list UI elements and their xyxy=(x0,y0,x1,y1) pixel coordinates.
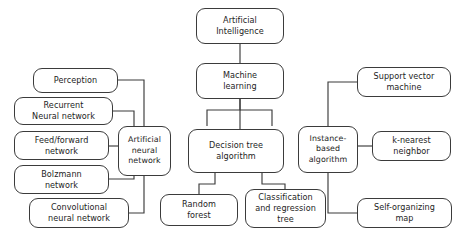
node-decision_tree_algorithm[interactable]: Decision tree algorithm xyxy=(188,129,284,173)
node-support_vector_machine[interactable]: Support vector machine xyxy=(357,67,451,97)
edge-perception-to-artificial_neural_network xyxy=(118,80,144,126)
node-convolutional_neural_network[interactable]: Convolutional neural network xyxy=(29,198,129,228)
node-label-artificial_neural_network: Artificial neural network xyxy=(128,135,161,166)
node-label-self_organizing_map: Self-organizing map xyxy=(374,202,435,223)
node-label-perception: Perception xyxy=(54,75,97,86)
node-classification_and_regression_tree[interactable]: Classification and regression tree xyxy=(245,189,326,228)
node-bolzmann_network[interactable]: Bolzmann network xyxy=(14,165,109,194)
node-label-k_nearest_neighbor: k-nearest neighbor xyxy=(392,135,431,156)
node-label-support_vector_machine: Support vector machine xyxy=(374,71,435,92)
node-self_organizing_map[interactable]: Self-organizing map xyxy=(357,198,452,228)
node-label-recurrent_neural_network: Recurrent Neural network xyxy=(32,100,95,121)
edge-instance_based_algorithm-to-support_vector_machine xyxy=(328,82,357,126)
node-label-feed_forward_network: Feed/forward network xyxy=(35,135,89,156)
node-label-bolzmann_network: Bolzmann network xyxy=(41,169,82,190)
edge-recurrent_neural_network-to-artificial_neural_network xyxy=(113,111,134,126)
node-label-machine_learning: Machine learning xyxy=(223,70,257,91)
flowchart-canvas: Artificial IntelligenceMachine learningA… xyxy=(0,0,458,243)
edge-machine_learning-to-instance_based_algorithm xyxy=(240,110,272,126)
node-artificial_intelligence[interactable]: Artificial Intelligence xyxy=(196,8,284,44)
node-label-random_forest: Random forest xyxy=(182,199,216,220)
node-label-convolutional_neural_network: Convolutional neural network xyxy=(48,202,110,223)
node-label-decision_tree_algorithm: Decision tree algorithm xyxy=(209,140,263,161)
node-label-classification_and_regression_tree: Classification and regression tree xyxy=(255,192,316,224)
edge-decision_tree_algorithm-to-random_forest xyxy=(199,173,215,194)
node-perception[interactable]: Perception xyxy=(33,68,118,93)
node-artificial_neural_network[interactable]: Artificial neural network xyxy=(118,126,171,176)
edge-instance_based_algorithm-to-self_organizing_map xyxy=(328,173,357,213)
node-machine_learning[interactable]: Machine learning xyxy=(196,63,284,99)
edge-decision_tree_algorithm-to-classification_and_regression_tree xyxy=(262,173,285,189)
edge-machine_learning-to-artificial_neural_network xyxy=(207,99,240,126)
edge-bolzmann_network-to-artificial_neural_network xyxy=(109,176,134,179)
node-feed_forward_network[interactable]: Feed/forward network xyxy=(14,131,109,160)
node-label-artificial_intelligence: Artificial Intelligence xyxy=(216,15,264,36)
node-k_nearest_neighbor[interactable]: k-nearest neighbor xyxy=(372,131,451,161)
node-instance_based_algorithm[interactable]: Instance- based algorithm xyxy=(298,126,358,173)
node-random_forest[interactable]: Random forest xyxy=(160,194,238,226)
node-recurrent_neural_network[interactable]: Recurrent Neural network xyxy=(14,97,113,125)
edge-convolutional_neural_network-to-artificial_neural_network xyxy=(129,176,144,213)
node-label-instance_based_algorithm: Instance- based algorithm xyxy=(309,134,348,165)
